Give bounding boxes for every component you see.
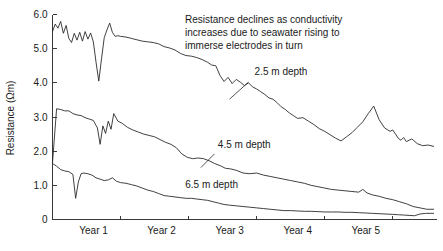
x-tick-label: Year 5 xyxy=(351,225,380,236)
leader-line-1 xyxy=(229,82,248,99)
y-axis-title: Resistance (Ωm) xyxy=(5,81,16,156)
series-label-3: 6.5 m depth xyxy=(185,179,238,190)
y-tick-label: 2.0 xyxy=(34,146,48,157)
series-leader-lines xyxy=(201,82,249,167)
leader-line-2 xyxy=(201,154,215,168)
x-tick-label: Year 2 xyxy=(147,225,176,236)
x-axis-ticks: Year 1Year 2Year 3Year 4Year 5 xyxy=(79,216,392,236)
series-line-3 xyxy=(53,163,434,215)
x-tick-label: Year 3 xyxy=(215,225,244,236)
y-tick-label: 4.0 xyxy=(34,77,48,88)
chart-annotation: Resistance declines as conductivityincre… xyxy=(185,14,342,51)
annotation-line-1: Resistance declines as conductivity xyxy=(185,14,342,25)
y-axis-title-label: Resistance (Ωm) xyxy=(5,81,16,156)
x-tick-label: Year 1 xyxy=(79,225,108,236)
y-tick-label: 3.0 xyxy=(34,112,48,123)
y-tick-label: 1.0 xyxy=(34,180,48,191)
series-line-2 xyxy=(53,109,434,209)
chart-figure: Resistance (Ωm) 01.02.03.04.05.06.0 Year… xyxy=(0,0,443,251)
annotation-line-2: increases due to seawater rising to xyxy=(185,27,340,38)
y-tick-label: 6.0 xyxy=(34,9,48,20)
series-label-1: 2.5 m depth xyxy=(255,66,308,77)
resistance-line-chart: Resistance (Ωm) 01.02.03.04.05.06.0 Year… xyxy=(0,0,443,251)
annotation-line-3: immerse electrodes in turn xyxy=(185,40,303,51)
series-label-2: 4.5 m depth xyxy=(218,139,271,150)
y-tick-label: 0 xyxy=(42,214,48,225)
y-axis-ticks: 01.02.03.04.05.06.0 xyxy=(34,9,57,225)
x-tick-label: Year 4 xyxy=(283,225,312,236)
y-tick-label: 5.0 xyxy=(34,43,48,54)
